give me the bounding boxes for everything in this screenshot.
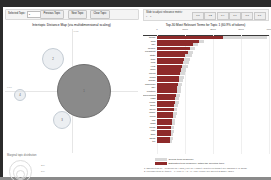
ldavis-app: Selected Topic: 1 Previous Topic Next To… — [0, 0, 271, 180]
slider-tick-0.0[interactable]: 0.0 — [192, 12, 204, 21]
marginal-legend-title: Marginal topic distribution — [7, 154, 85, 157]
barchart-title: Top-30 Most Relevant Terms for Topic 1 (… — [141, 23, 270, 27]
barchart-legend: Overall term frequency Estimated term fr… — [155, 158, 267, 166]
axis-label-pc2: PC2 — [74, 30, 79, 33]
topic-bubble-3[interactable]: 3 — [53, 111, 71, 129]
x-gridline — [269, 35, 270, 154]
barchart-rows: trumpsaidsaypeoplepresidentstatetimenewy… — [143, 36, 269, 144]
next-topic-label: Next Topic — [68, 10, 87, 19]
ring-label-5: 5% — [41, 170, 45, 173]
ring-label-10: 10% — [41, 176, 46, 179]
x-axis-tick: 3000 — [238, 28, 244, 31]
previous-topic-label: Previous Topic — [40, 10, 64, 19]
intertopic-map-panel: Selected Topic: 1 Previous Topic Next To… — [3, 7, 140, 177]
bar-topic-frequency — [157, 140, 170, 143]
map-title: Intertopic Distance Map (via multidimens… — [3, 23, 140, 27]
legend-topic: Estimated term frequency within the sele… — [155, 162, 267, 165]
note-relevance: 2. relevance(term w | topic t) = λ * p(w… — [144, 170, 270, 173]
legend-overall-label: Overall term frequency — [169, 158, 194, 161]
x-axis-tick: 1000 — [182, 28, 188, 31]
marginal-legend-rings: 2% 5% 10% — [7, 158, 85, 180]
formula-notes: 1. saliency(term w) = frequency(w) * [su… — [144, 167, 270, 173]
term-barchart-panel: Slide to adjust relevance metric: λ = 1 … — [141, 7, 270, 177]
legend-topic-label: Estimated term frequency within the sele… — [169, 162, 225, 165]
intertopic-distance-map[interactable]: PC2 PC1 1234 — [5, 29, 138, 153]
previous-topic-button[interactable]: Previous Topic — [40, 11, 64, 18]
term-row[interactable]: tell — [143, 140, 269, 143]
topic-bubble-2[interactable]: 2 — [42, 48, 64, 70]
selected-topic-control[interactable]: Selected Topic: 1 — [8, 11, 41, 18]
relevance-slider-label: Slide to adjust relevance metric: — [146, 11, 183, 14]
term-label[interactable]: tell — [143, 140, 156, 143]
selected-topic-input[interactable]: 1 — [27, 11, 41, 19]
slider-tick-1.0[interactable]: 1.0 — [254, 12, 266, 21]
relevance-slider[interactable]: Slide to adjust relevance metric: λ = 1 … — [143, 9, 269, 21]
legend-overall: Overall term frequency — [155, 158, 267, 161]
selected-topic-label: Selected Topic: — [8, 13, 26, 16]
topic-bubble-1[interactable]: 1 — [57, 64, 111, 118]
topic-bubble-number: 4 — [19, 93, 21, 97]
topic-bubble-number: 2 — [52, 57, 54, 61]
x-axis-tick: 2000 — [210, 28, 216, 31]
topic-bubble-4[interactable]: 4 — [14, 89, 26, 101]
clear-topic-button[interactable]: Clear Topic — [90, 11, 110, 18]
lambda-value: λ = 1 — [146, 15, 151, 18]
window-top-edge — [0, 0, 271, 7]
legend-swatch-topic — [155, 162, 167, 165]
bar-overall-frequency — [157, 140, 172, 143]
clear-topic-label: Clear Topic — [90, 10, 110, 19]
term-frequency-barchart: 01000200030004000 trumpsaidsaypeoplepres… — [143, 28, 269, 154]
topic-bubble-number: 1 — [83, 89, 85, 93]
slider-tick-0.8[interactable]: 0.8 — [241, 12, 253, 21]
x-axis-tick: 0 — [156, 28, 157, 31]
topic-toolbar: Selected Topic: 1 Previous Topic Next To… — [5, 9, 139, 20]
x-axis-tick: 4000 — [266, 28, 271, 31]
slider-tick-0.4[interactable]: 0.4 — [217, 12, 229, 21]
relevance-slider-track[interactable]: 0.00.20.40.60.81.0 — [192, 12, 266, 19]
slider-tick-0.6[interactable]: 0.6 — [229, 12, 241, 21]
legend-swatch-overall — [155, 158, 167, 161]
ring-label-2: 2% — [41, 164, 45, 167]
topic-bubble-number: 3 — [61, 118, 63, 122]
ring-2 — [16, 170, 25, 179]
axis-label-pc1: PC1 — [7, 86, 12, 89]
marginal-topic-distribution-legend: Marginal topic distribution 2% 5% 10% — [7, 154, 85, 180]
next-topic-button[interactable]: Next Topic — [68, 11, 87, 18]
slider-tick-0.2[interactable]: 0.2 — [204, 12, 216, 21]
